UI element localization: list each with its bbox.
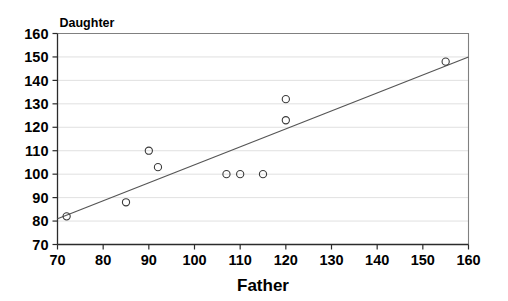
y-tick-label: 100	[24, 166, 48, 182]
data-point-marker	[282, 96, 289, 103]
x-tick-label: 100	[182, 252, 206, 268]
y-tick-label: 150	[24, 49, 48, 65]
x-tick-label: 90	[141, 252, 157, 268]
chart-canvas: 7080901001101201301401501607080901001101…	[0, 0, 508, 301]
scatter-plot-screenshot: 7080901001101201301401501607080901001101…	[0, 0, 508, 301]
y-tick-label: 110	[25, 143, 48, 159]
data-point-marker	[442, 58, 449, 65]
x-tick-label: 120	[274, 252, 298, 268]
y-tick-label: 70	[32, 237, 48, 253]
x-axis-title: Father	[237, 276, 289, 295]
data-point-marker	[282, 117, 289, 124]
x-tick-label: 80	[95, 252, 111, 268]
y-tick-label: 120	[24, 119, 48, 135]
x-tick-label: 130	[319, 252, 343, 268]
x-tick-label: 140	[365, 252, 389, 268]
x-tick-label: 70	[49, 252, 65, 268]
y-tick-label: 160	[24, 26, 48, 42]
y-tick-label: 80	[32, 213, 48, 229]
x-tick-label: 150	[411, 252, 435, 268]
regression-line	[58, 57, 469, 219]
data-point-marker	[122, 199, 129, 206]
x-tick-label: 110	[228, 252, 251, 268]
y-tick-label: 140	[24, 73, 48, 89]
series-title-label: Daughter	[60, 16, 115, 30]
y-tick-label: 130	[24, 96, 48, 112]
plot-frame	[58, 34, 469, 245]
data-point-marker	[154, 164, 161, 171]
x-tick-label: 160	[456, 252, 480, 268]
y-tick-label: 90	[32, 190, 48, 206]
